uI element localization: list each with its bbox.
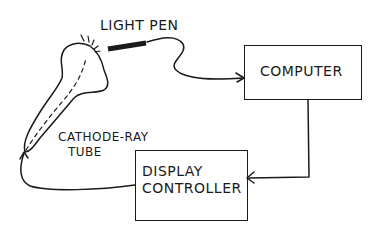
light-pen-body [108,43,146,49]
crt-label-line1: CATHODE-RAY [58,131,149,143]
pen-cable [147,38,243,79]
display-controller-label-line1: DISPLAY [142,164,203,178]
computer-to-controller-line [249,100,309,178]
crt-label-line2: TUBE [68,146,102,158]
display-controller-label-line2: CONTROLLER [142,181,242,195]
light-pen-label: LIGHT PEN [100,18,179,32]
computer-label: COMPUTER [260,64,343,78]
arrowhead-to-crt [20,152,28,159]
